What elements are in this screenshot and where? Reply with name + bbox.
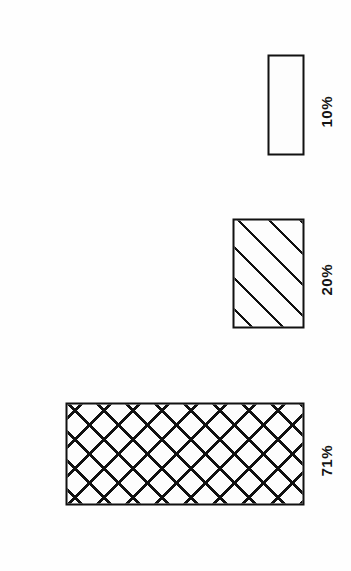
bar-nurse — [232, 218, 304, 328]
bar-no-caregiver — [65, 402, 304, 505]
bar-value-label-other-caregiver: 10% — [318, 95, 333, 127]
bar-value-label-no-caregiver: 71% — [318, 444, 333, 476]
bar-value-label-nurse: 20% — [318, 263, 333, 295]
bar-group-no-caregiver: 71% No caregiver present — [0, 397, 351, 505]
bar-group-nurse: 20% Nurse present — [0, 218, 351, 328]
bar-group-other-caregiver: 10% Parent, physician or other caregiver… — [0, 53, 351, 155]
chart-plot-area: 71% No caregiver present 20% Nurse prese… — [0, 0, 351, 571]
bar-chart-figure: 71% No caregiver present 20% Nurse prese… — [0, 0, 351, 571]
bar-other-caregiver — [267, 54, 304, 155]
